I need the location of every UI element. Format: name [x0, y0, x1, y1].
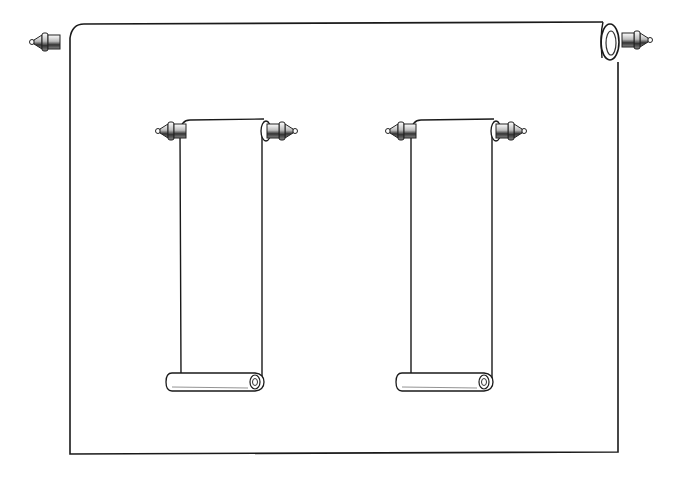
main-scroll-right-curl-icon: [601, 22, 619, 60]
scroll-illustration: [0, 0, 680, 484]
small-scroll-right-bottom-roll-icon: [396, 373, 493, 391]
small-scroll-left-finial-left-icon: [156, 122, 187, 140]
small-scroll-right-finial-right-icon: [496, 122, 527, 140]
main-scroll-sheet: [70, 22, 618, 454]
small-scroll-left-bottom-roll-icon: [166, 373, 264, 391]
small-scroll-left: [156, 119, 298, 391]
small-scroll-left-finial-right-icon: [267, 122, 298, 140]
small-scroll-right: [386, 119, 527, 391]
small-scroll-right-finial-left-icon: [386, 122, 417, 140]
main-scroll-right-finial-icon: [622, 31, 653, 49]
main-scroll-left-finial-icon: [30, 33, 61, 51]
main-scroll: [30, 22, 653, 454]
